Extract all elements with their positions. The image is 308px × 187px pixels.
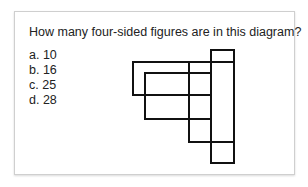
four-sided-figures-diagram bbox=[0, 0, 308, 187]
